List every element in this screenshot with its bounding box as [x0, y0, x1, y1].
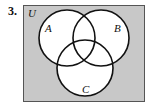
set-c-label: C	[82, 83, 90, 95]
set-b-label: B	[114, 22, 121, 34]
venn-diagram: U A B C	[0, 0, 146, 110]
set-a-label: A	[44, 22, 52, 34]
universe-label: U	[28, 7, 37, 19]
